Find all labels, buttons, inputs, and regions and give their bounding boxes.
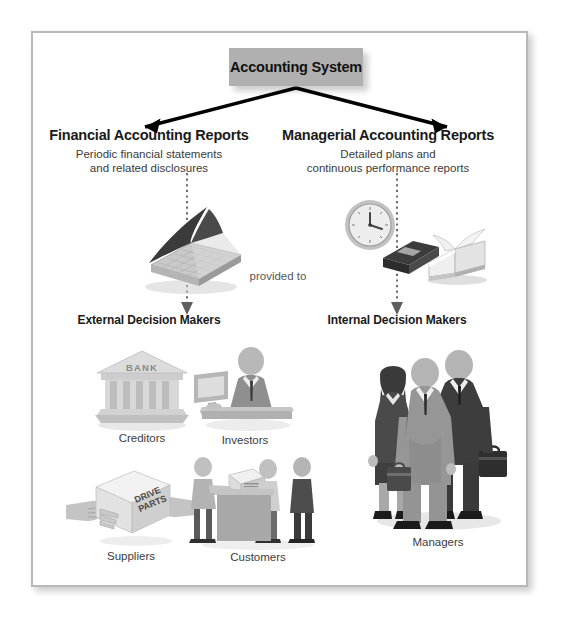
branch-title-managerial: Managerial Accounting Reports — [263, 127, 513, 143]
bank-sign-text: BANK — [126, 362, 158, 373]
provided-to-label: provided to — [218, 270, 338, 282]
hands-holding-box-icon: DRIVE PARTS — [66, 461, 196, 549]
branch-subtitle-financial: Periodic financial statements and relate… — [24, 147, 274, 176]
branch-heading-financial: Financial Accounting Reports Periodic fi… — [24, 127, 274, 176]
bank-building-icon: BANK — [87, 343, 197, 433]
wall-clock-icon — [345, 200, 395, 250]
caption-managers: Managers — [378, 536, 498, 548]
managerial-report-icons — [333, 185, 493, 305]
branch-subtitle-financial-line1: Periodic financial statements — [24, 147, 274, 161]
caption-suppliers: Suppliers — [71, 550, 191, 562]
caption-customers: Customers — [188, 551, 328, 563]
customer-figure-b — [288, 457, 315, 543]
businessperson-figure — [230, 347, 272, 409]
branch-title-financial: Financial Accounting Reports — [24, 127, 274, 143]
open-ledger-book-icon — [129, 193, 249, 303]
three-managers-icon — [353, 345, 523, 535]
audience-label-external: External Decision Makers — [39, 313, 259, 327]
figure-canvas: Accounting System — [33, 33, 526, 585]
accounting-system-figure: Accounting System — [0, 0, 565, 621]
branch-heading-managerial: Managerial Accounting Reports Detailed p… — [263, 127, 513, 176]
branch-subtitle-financial-line2: and related disclosures — [24, 161, 274, 175]
accounting-system-title-box: Accounting System — [229, 48, 363, 86]
caption-creditors: Creditors — [82, 432, 202, 444]
caption-investors: Investors — [185, 434, 305, 446]
branch-subtitle-managerial-line1: Detailed plans and — [263, 147, 513, 161]
investor-at-desk-icon — [188, 345, 303, 433]
retail-counter-icon — [183, 453, 333, 551]
audience-label-internal: Internal Decision Makers — [287, 313, 507, 327]
page-title: Accounting System — [230, 59, 362, 75]
branch-subtitle-managerial: Detailed plans and continuous performanc… — [263, 147, 513, 176]
branch-subtitle-managerial-line2: continuous performance reports — [263, 161, 513, 175]
